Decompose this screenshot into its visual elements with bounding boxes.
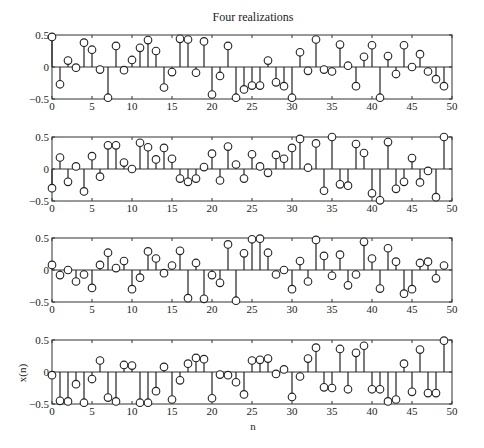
stem-point	[96, 261, 104, 270]
stem-point	[440, 67, 448, 90]
stem-point	[72, 64, 80, 72]
stem-point	[280, 266, 288, 274]
circle-marker-icon	[200, 163, 208, 171]
stem-point	[296, 48, 304, 67]
circle-marker-icon	[392, 70, 400, 78]
stem-point	[72, 163, 80, 171]
stem-point	[216, 371, 224, 379]
y-tick-label: −0.5	[29, 93, 49, 105]
stem-point	[160, 67, 168, 91]
stem-point	[248, 235, 256, 270]
stem-point	[104, 67, 112, 102]
stem-point	[432, 270, 440, 282]
x-tick-label: 40	[367, 100, 379, 112]
stem-point	[352, 67, 360, 90]
circle-marker-icon	[184, 294, 192, 302]
stem-point	[152, 47, 160, 67]
stem-point	[96, 357, 104, 372]
x-tick-label: 30	[287, 202, 299, 214]
circle-marker-icon	[344, 385, 352, 393]
stem-point	[400, 41, 408, 67]
circle-marker-icon	[392, 396, 400, 404]
circle-marker-icon	[368, 385, 376, 393]
circle-marker-icon	[104, 142, 112, 150]
x-tick-label: 30	[287, 405, 299, 417]
circle-marker-icon	[136, 274, 144, 282]
stem-point	[320, 169, 328, 195]
circle-marker-icon	[192, 175, 200, 183]
stem-point	[120, 361, 128, 372]
stem-point	[88, 152, 96, 169]
circle-marker-icon	[112, 264, 120, 272]
y-tick-label: 0.5	[35, 334, 49, 346]
circle-marker-icon	[416, 179, 424, 187]
stem-point	[136, 139, 144, 169]
circle-marker-icon	[112, 42, 120, 50]
stem-point	[152, 372, 160, 395]
x-tick-label: 0	[49, 303, 55, 315]
circle-marker-icon	[200, 295, 208, 303]
circle-marker-icon	[208, 150, 216, 158]
stem-point	[144, 36, 152, 67]
stem-point	[160, 363, 168, 372]
stem-point	[424, 167, 432, 175]
circle-marker-icon	[416, 346, 424, 354]
stem-point	[136, 44, 144, 67]
circle-marker-icon	[304, 164, 312, 172]
x-tick-label: 45	[407, 202, 419, 214]
circle-marker-icon	[128, 362, 136, 370]
circle-marker-icon	[376, 385, 384, 393]
circle-marker-icon	[104, 249, 112, 257]
circle-marker-icon	[184, 360, 192, 368]
stem-point	[360, 342, 368, 372]
x-tick-label: 35	[327, 405, 339, 417]
stem-point	[224, 143, 232, 169]
x-tick-label: 5	[89, 202, 95, 214]
circle-marker-icon	[304, 355, 312, 363]
circle-marker-icon	[176, 247, 184, 255]
circle-marker-icon	[280, 82, 288, 90]
circle-marker-icon	[400, 178, 408, 186]
circle-marker-icon	[336, 41, 344, 49]
stem-point	[120, 159, 128, 169]
circle-marker-icon	[80, 39, 88, 47]
circle-marker-icon	[264, 169, 272, 177]
stem-point	[104, 372, 112, 401]
circle-marker-icon	[288, 285, 296, 293]
stem-point	[112, 372, 120, 405]
stem-point	[56, 67, 64, 88]
circle-marker-icon	[296, 135, 304, 143]
x-axis-label: n	[250, 420, 256, 432]
stem-point	[304, 164, 312, 172]
stem-point	[424, 67, 432, 75]
circle-marker-icon	[240, 250, 248, 258]
stem-point	[432, 372, 440, 397]
circle-marker-icon	[120, 159, 128, 167]
circle-marker-icon	[400, 41, 408, 49]
stem-point	[80, 372, 88, 407]
stem-point	[64, 266, 72, 274]
circle-marker-icon	[256, 356, 264, 364]
stem-point	[56, 270, 64, 279]
stem-point	[184, 360, 192, 372]
stem-point	[96, 66, 104, 74]
circle-marker-icon	[408, 388, 416, 396]
stem-point	[368, 169, 376, 197]
stem-point	[384, 138, 392, 169]
circle-marker-icon	[64, 178, 72, 186]
circle-marker-icon	[392, 185, 400, 193]
stem-point	[368, 372, 376, 393]
stem-point	[352, 140, 360, 169]
stem-point	[392, 372, 400, 403]
circle-marker-icon	[216, 279, 224, 287]
stem-point	[336, 169, 344, 188]
circle-marker-icon	[424, 258, 432, 266]
stem-point	[304, 355, 312, 372]
circle-marker-icon	[360, 238, 368, 246]
circle-marker-icon	[160, 84, 168, 92]
stem-point	[408, 154, 416, 169]
circle-marker-icon	[232, 161, 240, 169]
circle-marker-icon	[424, 68, 432, 76]
circle-marker-icon	[144, 36, 152, 44]
circle-marker-icon	[200, 38, 208, 46]
